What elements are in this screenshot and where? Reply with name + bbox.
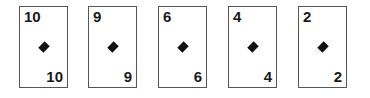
card-rank-top: 10 bbox=[24, 9, 41, 25]
playing-card-2-diamonds: 2 2 bbox=[298, 6, 347, 88]
diamond-icon bbox=[317, 41, 328, 52]
card-rank-top: 6 bbox=[163, 9, 171, 25]
diamond-icon bbox=[107, 41, 118, 52]
diamond-icon bbox=[177, 41, 188, 52]
card-rank-top: 9 bbox=[93, 9, 101, 25]
playing-card-9-diamonds: 9 9 bbox=[88, 6, 137, 88]
card-rank-bottom: 6 bbox=[194, 69, 202, 85]
diamond-icon bbox=[247, 41, 258, 52]
card-rank-top: 2 bbox=[303, 9, 311, 25]
card-rank-bottom: 10 bbox=[46, 69, 63, 85]
card-rank-bottom: 2 bbox=[334, 69, 342, 85]
diamond-icon bbox=[38, 41, 49, 52]
playing-card-4-diamonds: 4 4 bbox=[228, 6, 277, 88]
card-rank-bottom: 4 bbox=[264, 69, 272, 85]
card-rank-top: 4 bbox=[233, 9, 241, 25]
card-rank-bottom: 9 bbox=[124, 69, 132, 85]
playing-card-6-diamonds: 6 6 bbox=[158, 6, 207, 88]
playing-card-10-diamonds: 10 10 bbox=[19, 6, 68, 88]
